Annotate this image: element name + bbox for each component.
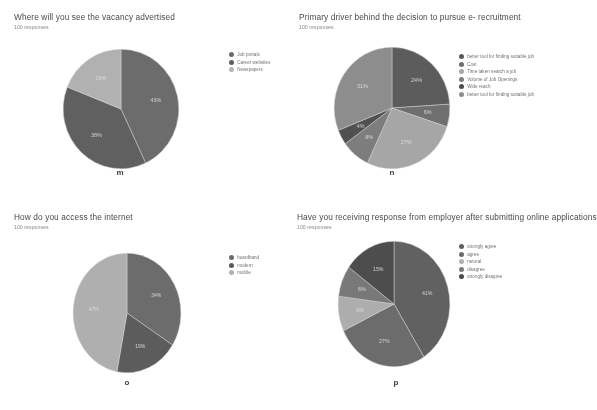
pie-slice-percent-label: 8%: [365, 133, 373, 139]
legend-swatch-icon: [459, 54, 464, 59]
chart-legend-o: boardbandmodernmobile: [229, 255, 259, 275]
legend-item: Cost: [459, 62, 534, 67]
figure-label-o: o: [102, 378, 152, 387]
chart-legend-n: better tool for finding suitable jobCost…: [459, 54, 534, 97]
pie-slice-percent-label: 4%: [357, 123, 365, 129]
legend-item: Wide reach: [459, 84, 534, 89]
pie-slice-percent-label: 41%: [422, 289, 433, 295]
legend-swatch-icon: [229, 255, 234, 260]
legend-item: better tool for finding suitable job: [459, 92, 534, 97]
pie-slice-percent-label: 24%: [411, 77, 422, 83]
legend-label: modern: [237, 263, 253, 268]
legend-label: Wide reach: [467, 84, 490, 89]
legend-item: Newspapers: [229, 67, 270, 72]
legend-swatch-icon: [459, 252, 464, 257]
legend-swatch-icon: [229, 270, 234, 275]
legend-label: better tool for finding suitable job: [467, 92, 534, 97]
legend-swatch-icon: [459, 259, 464, 264]
pie-slice-percent-label: 19%: [95, 75, 106, 81]
legend-item: Job portals: [229, 52, 270, 57]
pie-slice-percent-label: 9%: [356, 306, 364, 312]
pie-slice-percent-label: 8%: [358, 286, 366, 292]
legend-item: disagree: [459, 267, 502, 272]
chart-subtitle-n: 100 responses: [299, 24, 334, 30]
chart-subtitle-p: 100 responses: [297, 224, 332, 230]
pie-chart-p: 41%27%9%8%15%: [337, 240, 451, 368]
pie-chart-n: 24%6%27%8%4%31%: [333, 46, 451, 170]
legend-label: strongly agree: [467, 244, 496, 249]
legend-swatch-icon: [459, 92, 464, 97]
legend-label: Newspapers: [237, 67, 263, 72]
legend-label: Volume of Job Openings: [467, 77, 517, 82]
chart-title-o: How do you access the internet: [14, 212, 133, 222]
legend-item: boardband: [229, 255, 259, 260]
chart-panel-n: Primary driver behind the decision to pu…: [285, 0, 570, 200]
pie-slice-percent-label: 15%: [373, 266, 384, 272]
pie-slice-percent-label: 43%: [151, 97, 162, 103]
legend-swatch-icon: [459, 274, 464, 279]
legend-label: netural: [467, 259, 481, 264]
legend-item: agree: [459, 252, 502, 257]
chart-panel-m: Where will you see the vacancy advertise…: [0, 0, 285, 200]
legend-label: boardband: [237, 255, 259, 260]
legend-label: Cost: [467, 62, 476, 67]
pie-slice-percent-label: 38%: [91, 132, 102, 138]
legend-item: strongly disagree: [459, 274, 502, 279]
legend-swatch-icon: [459, 77, 464, 82]
chart-legend-m: Job portalsCareer websitesNewspapers: [229, 52, 270, 72]
legend-item: Time taken search a job: [459, 69, 534, 74]
legend-label: Job portals: [237, 52, 260, 57]
legend-swatch-icon: [229, 67, 234, 72]
pie-slice-percent-label: 31%: [357, 83, 368, 89]
pie-chart-m: 43%38%19%: [62, 48, 180, 170]
pie-svg-n: 24%6%27%8%4%31%: [333, 46, 451, 170]
legend-label: mobile: [237, 270, 251, 275]
pie-slice-percent-label: 19%: [135, 343, 145, 349]
pie-slice-percent-label: 34%: [151, 291, 161, 297]
pie-slice-percent-label: 27%: [401, 139, 412, 145]
chart-title-m: Where will you see the vacancy advertise…: [14, 12, 175, 22]
legend-swatch-icon: [229, 60, 234, 65]
legend-label: disagree: [467, 267, 485, 272]
legend-item: netural: [459, 259, 502, 264]
legend-label: better tool for finding suitable job: [467, 54, 534, 59]
legend-label: agree: [467, 252, 479, 257]
legend-label: strongly disagree: [467, 274, 502, 279]
legend-item: strongly agree: [459, 244, 502, 249]
legend-item: Volume of Job Openings: [459, 77, 534, 82]
chart-panel-p: Have you receiving response from employe…: [285, 200, 570, 410]
figure-label-m: m: [95, 168, 145, 177]
pie-svg-m: 43%38%19%: [62, 48, 180, 170]
pie-slice-percent-label: 47%: [89, 306, 99, 312]
legend-swatch-icon: [459, 62, 464, 67]
legend-swatch-icon: [229, 52, 234, 57]
legend-label: Time taken search a job: [467, 69, 516, 74]
legend-item: better tool for finding suitable job: [459, 54, 534, 59]
legend-item: Career websites: [229, 60, 270, 65]
legend-item: mobile: [229, 270, 259, 275]
figure-label-p: p: [371, 378, 421, 387]
pie-chart-o: 34%19%47%: [72, 252, 182, 374]
legend-swatch-icon: [459, 69, 464, 74]
legend-item: modern: [229, 263, 259, 268]
chart-legend-p: strongly agreeagreeneturaldisagreestrong…: [459, 244, 502, 279]
figure-label-n: n: [367, 168, 417, 177]
legend-swatch-icon: [459, 244, 464, 249]
pie-slice-percent-label: 6%: [424, 109, 432, 115]
pie-svg-p: 41%27%9%8%15%: [337, 240, 451, 368]
chart-panel-o: How do you access the internet 100 respo…: [0, 200, 285, 410]
pie-svg-o: 34%19%47%: [72, 252, 182, 374]
chart-title-p: Have you receiving response from employe…: [297, 212, 597, 222]
legend-swatch-icon: [459, 267, 464, 272]
pie-slice[interactable]: [73, 253, 127, 372]
legend-label: Career websites: [237, 60, 270, 65]
legend-swatch-icon: [459, 84, 464, 89]
legend-swatch-icon: [229, 263, 234, 268]
chart-title-n: Primary driver behind the decision to pu…: [299, 12, 521, 22]
chart-subtitle-m: 100 responses: [14, 24, 49, 30]
chart-subtitle-o: 100 responses: [14, 224, 49, 230]
pie-slice-percent-label: 27%: [379, 338, 390, 344]
